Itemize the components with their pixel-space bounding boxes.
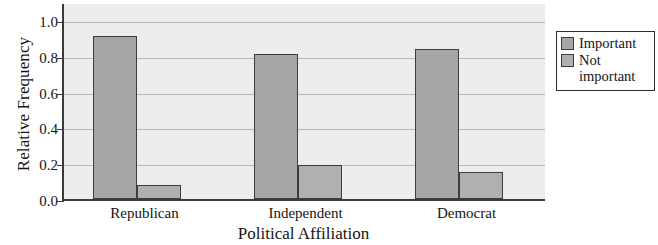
x-axis-tick-label: Democrat — [437, 205, 496, 222]
y-axis-tick-label: 0.6 — [24, 86, 58, 101]
legend-swatch-icon — [561, 37, 574, 50]
y-axis-tick-mark — [57, 94, 64, 95]
y-axis-tick-label: 1.0 — [24, 15, 58, 30]
bars-layer — [64, 4, 545, 199]
y-axis-tick-mark — [57, 165, 64, 166]
y-axis-tick-label: 0.0 — [24, 194, 58, 209]
x-axis-tick-label: Republican — [110, 205, 178, 222]
y-axis-tick-label: 0.2 — [24, 158, 58, 173]
bar — [137, 185, 181, 199]
bar — [93, 36, 137, 199]
plot-area — [62, 4, 545, 201]
x-axis-tick-label: Independent — [268, 205, 342, 222]
legend-swatch-icon — [561, 54, 574, 67]
y-axis-tick-mark — [57, 22, 64, 23]
legend-entry: Important — [561, 35, 650, 51]
bar — [415, 49, 459, 199]
legend-label: Not important — [579, 52, 650, 84]
bar — [459, 172, 503, 199]
y-axis-tick-mark — [57, 58, 64, 59]
legend-label: Important — [579, 35, 636, 51]
y-axis-tick-label: 0.4 — [24, 122, 58, 137]
x-axis-tick-labels: RepublicanIndependentDemocrat — [62, 205, 545, 225]
chart-legend: ImportantNot important — [556, 31, 655, 91]
y-axis-tick-mark — [57, 129, 64, 130]
bar — [254, 54, 298, 199]
y-axis-tick-labels: 0.00.20.40.60.81.0 — [24, 0, 58, 245]
bar — [298, 165, 342, 199]
y-axis-tick-label: 0.8 — [24, 50, 58, 65]
y-axis-tick-mark — [57, 201, 64, 202]
x-axis-title: Political Affiliation — [62, 224, 545, 244]
bar-chart: Relative Frequency 0.00.20.40.60.81.0 Re… — [0, 0, 658, 245]
legend-entry: Not important — [561, 52, 650, 84]
